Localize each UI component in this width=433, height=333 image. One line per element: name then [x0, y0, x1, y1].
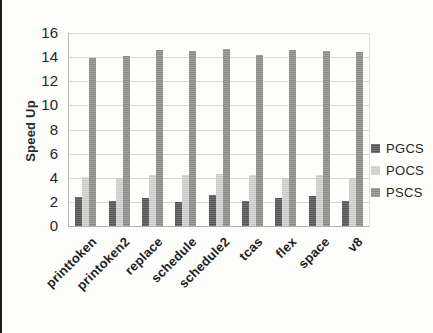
bar-POCS-replace: [149, 175, 156, 226]
y-tick-label-14: 14: [26, 49, 58, 65]
legend-swatch-PGCS: [371, 144, 380, 153]
bar-PGCS-v8: [342, 201, 349, 226]
bar-PGCS-printtoken: [75, 197, 82, 226]
bar-PSCS-v8: [356, 52, 363, 226]
legend-swatch-POCS: [371, 166, 380, 175]
y-tick-label-0: 0: [26, 218, 58, 234]
y-tick-label-12: 12: [26, 73, 58, 89]
bar-PSCS-flex: [289, 50, 296, 226]
legend-label-PSCS: PSCS: [386, 185, 423, 200]
bar-PSCS-schedule: [189, 51, 196, 226]
y-tick-label-4: 4: [26, 170, 58, 186]
y-tick-label-10: 10: [26, 97, 58, 113]
bar-POCS-schedule2: [216, 174, 223, 226]
bar-PSCS-replace: [156, 50, 163, 226]
y-tick-label-8: 8: [26, 122, 58, 138]
chart-figure: Speed Up 0246810121416 printtokenprintok…: [0, 0, 433, 333]
bar-POCS-printoken2: [116, 178, 123, 226]
bar-POCS-v8: [349, 178, 356, 226]
bar-PGCS-flex: [275, 198, 282, 226]
legend-item-PGCS: PGCS: [371, 137, 424, 159]
bar-POCS-flex: [282, 178, 289, 226]
bar-PGCS-replace: [142, 198, 149, 226]
bar-POCS-printtoken: [82, 177, 89, 226]
bar-PSCS-tcas: [256, 55, 263, 226]
bar-POCS-space: [316, 175, 323, 226]
legend-label-PGCS: PGCS: [386, 141, 424, 156]
bar-PGCS-schedule2: [209, 195, 216, 226]
legend-swatch-PSCS: [371, 188, 380, 197]
legend-item-POCS: POCS: [371, 159, 424, 181]
bar-POCS-schedule: [182, 175, 189, 226]
legend-item-PSCS: PSCS: [371, 181, 424, 203]
bar-PGCS-space: [309, 196, 316, 226]
bar-PSCS-printoken2: [123, 56, 130, 226]
legend-label-POCS: POCS: [386, 163, 424, 178]
y-tick-label-2: 2: [26, 194, 58, 210]
scan-edge-artifact: [0, 0, 2, 333]
bar-POCS-tcas: [249, 175, 256, 226]
plot-area: [68, 33, 370, 227]
y-tick-label-16: 16: [26, 25, 58, 41]
bar-PSCS-schedule2: [223, 49, 230, 226]
bar-PGCS-tcas: [242, 201, 249, 226]
bar-PSCS-printtoken: [89, 58, 96, 226]
y-tick-label-6: 6: [26, 146, 58, 162]
bar-PGCS-printoken2: [109, 201, 116, 226]
bar-PSCS-space: [323, 51, 330, 226]
bar-PGCS-schedule: [175, 202, 182, 226]
gridline-16: [69, 33, 369, 34]
legend: PGCSPOCSPSCS: [371, 137, 424, 203]
